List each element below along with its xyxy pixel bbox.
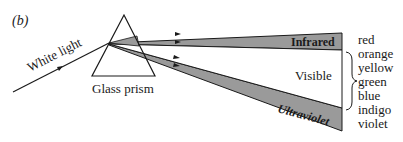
glass-prism-label: Glass prism	[92, 81, 154, 96]
prism-dispersion-diagram: (b) White light Glass prism Infrared Vis…	[0, 0, 403, 142]
arrow-icon	[175, 32, 181, 36]
color-yellow: yellow	[358, 60, 394, 75]
infrared-label: Infrared	[291, 35, 335, 49]
brace	[346, 52, 357, 110]
color-red: red	[358, 32, 375, 47]
color-green: green	[358, 74, 387, 89]
white-light-label: White light	[25, 34, 85, 74]
color-blue: blue	[358, 88, 381, 103]
color-indigo: indigo	[358, 102, 391, 117]
visible-label: Visible	[295, 68, 332, 83]
panel-label: (b)	[12, 13, 29, 29]
color-orange: orange	[358, 46, 394, 61]
arrow-icon	[57, 66, 63, 71]
color-violet: violet	[358, 116, 388, 131]
